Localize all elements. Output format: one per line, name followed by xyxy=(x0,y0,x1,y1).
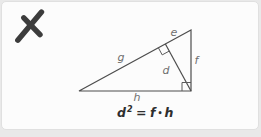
label-d: d xyxy=(163,64,171,77)
formula-rhs-second: h xyxy=(165,105,174,120)
label-e: e xyxy=(171,26,178,39)
label-h: h xyxy=(134,91,141,104)
triangle-shape xyxy=(79,30,191,91)
formula-equals: = xyxy=(133,105,150,120)
label-f: f xyxy=(195,54,201,67)
formula-multiplication-dot: • xyxy=(156,109,165,118)
label-g: g xyxy=(118,51,125,64)
formula-lhs-base: d xyxy=(117,105,126,120)
cross-mark-icon xyxy=(18,12,42,40)
formula: d2=f•h xyxy=(30,105,261,120)
side-labels: e g f d h xyxy=(118,26,201,105)
screenshot-stage: e g f d h d2=f•h xyxy=(0,0,261,137)
